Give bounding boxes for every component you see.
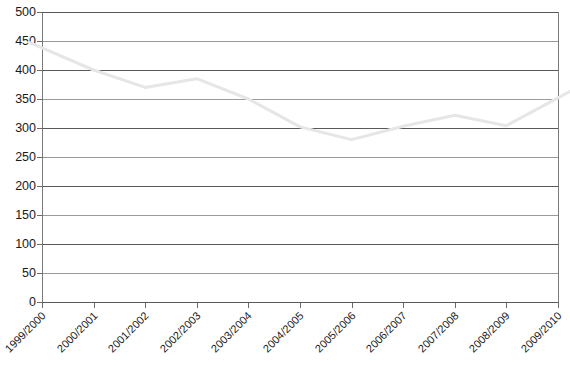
y-tick-mark-500 [37, 12, 43, 13]
y-tick-mark-100 [37, 244, 43, 245]
data-series-line [42, 12, 558, 302]
y-tick-mark-250 [37, 157, 43, 158]
y-tick-label-250: 250 [15, 151, 36, 164]
x-tick-label-2001-2002: 2001/2002 [106, 310, 151, 355]
line-chart: 050100150200250300350400450500 1999/2000… [0, 0, 570, 374]
x-tick-label-2005-2006: 2005/2006 [313, 310, 358, 355]
x-tick-mark-6 [352, 303, 353, 308]
y-tick-label-350: 350 [15, 93, 36, 106]
x-tick-mark-4 [248, 303, 249, 308]
plot-right-border [558, 12, 559, 303]
x-tick-label-2000-2001: 2000/2001 [55, 310, 100, 355]
x-tick-label-2003-2004: 2003/2004 [210, 310, 255, 355]
y-tick-mark-450 [37, 41, 43, 42]
x-tick-label-2002-2003: 2002/2003 [158, 310, 203, 355]
x-tick-label-2009-2010: 2009/2010 [519, 310, 564, 355]
x-tick-label-2008-2009: 2008/2009 [468, 310, 513, 355]
y-tick-mark-200 [37, 186, 43, 187]
y-tick-label-200: 200 [15, 180, 36, 193]
x-tick-mark-9 [506, 303, 507, 308]
x-tick-mark-0 [42, 303, 43, 308]
x-tick-mark-3 [197, 303, 198, 308]
y-tick-mark-50 [37, 273, 43, 274]
y-tick-label-150: 150 [15, 209, 36, 222]
x-tick-label-1999-2000: 1999/2000 [3, 310, 48, 355]
x-tick-mark-1 [94, 303, 95, 308]
x-tick-mark-2 [145, 303, 146, 308]
y-tick-mark-400 [37, 70, 43, 71]
y-tick-label-100: 100 [15, 238, 36, 251]
series-1-polyline [29, 42, 570, 139]
x-tick-mark-5 [300, 303, 301, 308]
y-tick-label-500: 500 [15, 6, 36, 19]
x-tick-label-2006-2007: 2006/2007 [364, 310, 409, 355]
y-tick-label-400: 400 [15, 64, 36, 77]
y-tick-mark-350 [37, 99, 43, 100]
y-tick-mark-300 [37, 128, 43, 129]
x-axis-labels: 1999/20002000/20012001/20022002/20032003… [0, 302, 570, 374]
x-tick-mark-8 [455, 303, 456, 308]
x-tick-mark-7 [403, 303, 404, 308]
y-tick-label-300: 300 [15, 122, 36, 135]
y-tick-mark-150 [37, 215, 43, 216]
y-tick-label-50: 50 [22, 267, 36, 280]
x-tick-label-2004-2005: 2004/2005 [261, 310, 306, 355]
x-tick-label-2007-2008: 2007/2008 [416, 310, 461, 355]
x-tick-mark-10 [558, 303, 559, 308]
